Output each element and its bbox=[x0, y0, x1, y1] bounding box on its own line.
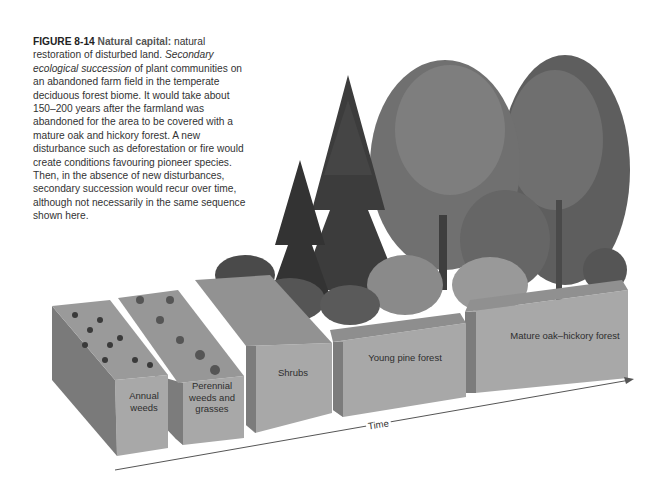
label-perennial: Perennial weeds and grasses bbox=[183, 380, 241, 415]
label-annual-weeds: Annual weeds bbox=[124, 390, 164, 413]
label-young-pine: Young pine forest bbox=[350, 352, 460, 364]
block-young-pine bbox=[330, 313, 466, 417]
arrow-head-icon bbox=[624, 377, 634, 384]
succession-illustration bbox=[0, 0, 666, 483]
label-shrubs: Shrubs bbox=[268, 367, 318, 379]
label-mature-oak: Mature oak–hickory forest bbox=[500, 330, 630, 342]
